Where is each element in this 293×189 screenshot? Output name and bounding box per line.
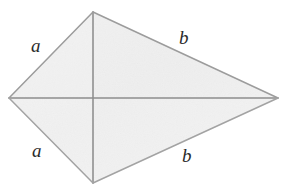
kite-diagram-svg [0,0,293,189]
side-label-a-upper: a [31,36,41,55]
side-label-b-upper: b [179,28,189,47]
side-label-a-lower: a [32,141,42,160]
kite-figure: a b a b [0,0,293,189]
side-label-b-lower: b [182,146,192,165]
